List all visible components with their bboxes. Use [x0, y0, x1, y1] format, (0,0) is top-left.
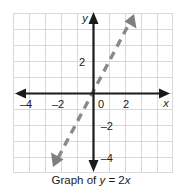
origin-label: 0 — [98, 98, 104, 110]
caption-variable-x: x — [125, 174, 131, 186]
x-tick-label-neg2: –2 — [52, 98, 64, 110]
axes-group — [15, 12, 170, 172]
caption-prefix: Graph of — [52, 174, 100, 186]
coordinate-plane: –4 –2 0 2 2 –2 –4 x y — [0, 0, 182, 194]
x-tick-label-pos2: 2 — [123, 98, 129, 110]
y-tick-label-neg4: –4 — [101, 152, 113, 164]
x-axis-label: x — [162, 97, 169, 109]
y-tick-label-neg2: –2 — [101, 120, 113, 132]
y-tick-label-pos2: 2 — [79, 56, 85, 68]
caption-equation: = 2 — [105, 174, 125, 186]
function-line-arrow-upper — [125, 14, 137, 29]
x-tick-label-neg4: –4 — [20, 98, 32, 110]
graph-figure: –4 –2 0 2 2 –2 –4 x y Graph of y = 2x — [0, 0, 182, 194]
y-axis-arrow-down — [89, 160, 99, 172]
x-axis-arrow-left — [15, 89, 26, 99]
figure-caption: Graph of y = 2x — [0, 174, 182, 186]
